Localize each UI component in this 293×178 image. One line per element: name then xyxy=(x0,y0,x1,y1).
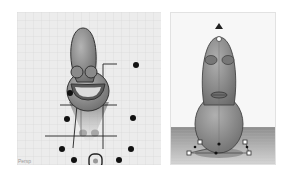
perspective-scene xyxy=(17,12,161,165)
right-eye xyxy=(85,66,97,78)
side-handle[interactable] xyxy=(246,146,249,149)
right-eye xyxy=(222,56,234,65)
corner-handle[interactable] xyxy=(198,140,202,144)
top-handle[interactable] xyxy=(217,37,222,42)
resize-handle[interactable] xyxy=(128,146,134,152)
corner-handle[interactable] xyxy=(243,140,247,144)
foot-shadow-left xyxy=(79,130,87,137)
height-arrow-icon[interactable] xyxy=(215,23,223,29)
left-eye xyxy=(205,56,217,65)
corner-handle[interactable] xyxy=(187,151,191,155)
perspective-viewport[interactable]: Persp xyxy=(17,12,161,165)
bottom-handle[interactable] xyxy=(214,151,217,154)
resize-handle[interactable] xyxy=(130,115,136,121)
view-corner-label: Persp xyxy=(18,158,31,164)
resize-handle[interactable] xyxy=(64,116,70,122)
foot-shadow-right xyxy=(91,130,99,137)
left-eye xyxy=(71,66,83,78)
center-handle[interactable] xyxy=(217,142,220,145)
front-scene xyxy=(171,13,276,165)
resize-handle[interactable] xyxy=(67,90,73,96)
corner-handle[interactable] xyxy=(247,151,251,155)
rotate-handle-dot xyxy=(93,159,98,164)
front-viewport[interactable] xyxy=(170,12,276,165)
resize-handle[interactable] xyxy=(116,157,122,163)
resize-handle[interactable] xyxy=(133,62,139,68)
resize-handle[interactable] xyxy=(71,157,77,163)
resize-handle[interactable] xyxy=(59,146,65,152)
side-handle[interactable] xyxy=(194,146,197,149)
